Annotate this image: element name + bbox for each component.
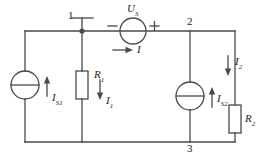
- current-label-i: I: [137, 44, 141, 55]
- voltage-source-label: US: [127, 3, 138, 17]
- node-label-1: 1: [68, 10, 74, 21]
- resistor-r1-label: R1: [94, 69, 104, 83]
- resistor-r2-subscript: 2: [252, 120, 256, 128]
- node-label-3: 3: [187, 143, 193, 154]
- resistor-r2-symbol: R: [245, 112, 252, 124]
- resistor-r1-subscript: 1: [101, 76, 105, 84]
- current-source-left-subscript: S1: [56, 99, 63, 107]
- voltage-source-symbol: U: [127, 2, 135, 14]
- resistor-r1-body: [76, 71, 88, 99]
- arrowhead-is2: [209, 87, 215, 95]
- current-source-left-label: IS1: [52, 92, 63, 106]
- resistor-r1-symbol: R: [94, 68, 101, 80]
- arrowhead-i2: [225, 69, 231, 77]
- current-label-i2: I2: [235, 56, 242, 70]
- resistor-r2-label: R2: [245, 113, 255, 127]
- circuit-diagram: 1 2 3 US I IS1 IS2 R1 I1 R2 I2: [0, 0, 264, 162]
- junction-dot-node1: [79, 28, 84, 33]
- voltage-source-subscript: S: [135, 10, 139, 18]
- resistor-r2-body: [229, 105, 241, 133]
- current-i2-subscript: 2: [239, 63, 243, 71]
- arrowhead-i1: [97, 93, 103, 101]
- current-i-symbol: I: [137, 43, 141, 55]
- node-label-2: 2: [187, 16, 193, 27]
- current-source-middle-label: IS2: [217, 93, 228, 107]
- current-label-i1: I1: [106, 95, 113, 109]
- arrowhead-is1: [44, 76, 50, 84]
- arrowhead-i: [126, 47, 134, 53]
- circuit-schematic-svg: [0, 0, 264, 162]
- current-i1-subscript: 1: [110, 102, 114, 110]
- current-source-middle-subscript: S2: [221, 100, 228, 108]
